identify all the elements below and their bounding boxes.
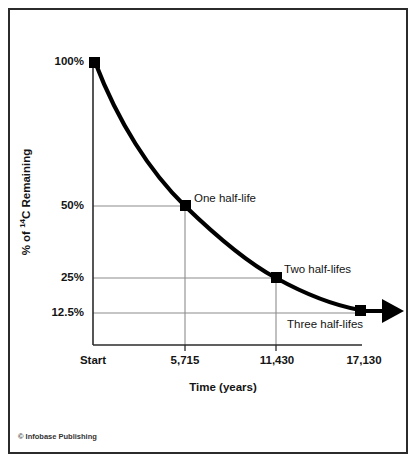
y-axis-title-suffix: C Remaining bbox=[20, 149, 32, 219]
data-point-two-half-lifes bbox=[271, 272, 282, 283]
data-point-three-half-lifes bbox=[355, 305, 366, 316]
y-tick-label-25: 25% bbox=[18, 271, 84, 283]
annotation-one-half-life: One half-life bbox=[194, 192, 256, 204]
y-tick-label-12-5: 12.5% bbox=[18, 306, 84, 318]
y-axis-title-superscript: 14 bbox=[18, 219, 27, 228]
x-tick-label-11430: 11,430 bbox=[244, 354, 310, 366]
data-point-one-half-life bbox=[180, 200, 191, 211]
y-tick-label-100: 100% bbox=[18, 55, 84, 67]
decay-curve-plot bbox=[0, 0, 418, 471]
x-tick-label-start: Start bbox=[63, 354, 123, 366]
y-axis-title: % of 14C Remaining bbox=[20, 132, 32, 272]
y-axis-title-prefix: % of bbox=[20, 228, 32, 255]
x-axis-title: Time (years) bbox=[93, 381, 353, 393]
annotation-two-half-lifes: Two half-lifes bbox=[284, 263, 351, 275]
x-tick-label-5715: 5,715 bbox=[155, 354, 215, 366]
figure-root: 100% 50% 25% 12.5% Start 5,715 11,430 17… bbox=[0, 0, 418, 471]
credit-line: © Infobase Publishing bbox=[18, 432, 97, 441]
annotation-three-half-lifes: Three half-lifes bbox=[287, 318, 363, 330]
x-tick-label-17130: 17,130 bbox=[331, 354, 397, 366]
arrow-head-icon bbox=[382, 299, 404, 323]
data-point-start bbox=[89, 57, 100, 68]
